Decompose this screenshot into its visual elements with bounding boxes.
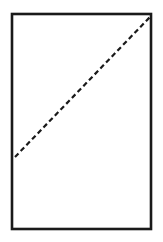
figure-svg	[0, 0, 163, 242]
figure-canvas	[0, 0, 163, 242]
outer-rectangle	[12, 14, 151, 229]
